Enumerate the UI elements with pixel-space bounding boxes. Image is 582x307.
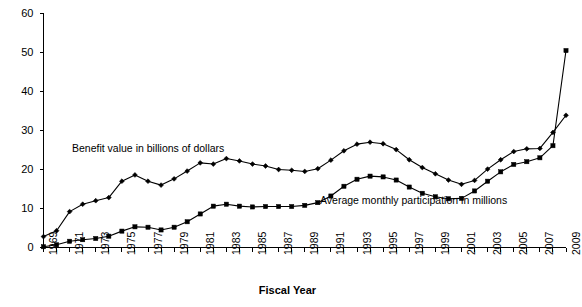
x-axis-title: Fiscal Year [0, 284, 575, 296]
y-tick-label: 30 [8, 125, 34, 136]
data-point-marker [211, 162, 216, 167]
data-point-marker [68, 239, 72, 243]
data-point-marker [524, 146, 529, 151]
data-point-marker [420, 165, 425, 170]
data-point-marker [289, 168, 294, 173]
data-point-marker [185, 220, 189, 224]
data-point-marker [80, 202, 85, 207]
data-point-marker [551, 144, 555, 148]
data-point-marker [290, 204, 294, 208]
x-axis-ticks [44, 248, 567, 252]
x-tick-label: 1983 [231, 231, 242, 254]
x-tick-label: 1995 [388, 231, 399, 254]
x-tick-label: 1997 [414, 231, 425, 254]
data-point-marker [512, 162, 516, 166]
axis-lines [44, 14, 567, 248]
y-tick-label: 60 [8, 8, 34, 19]
x-tick-label: 1991 [335, 231, 346, 254]
data-point-marker [538, 156, 542, 160]
data-point-marker [41, 234, 46, 239]
x-tick-label: 2003 [492, 231, 503, 254]
data-point-marker [472, 189, 476, 193]
data-point-marker [499, 170, 503, 174]
data-point-marker [133, 225, 137, 229]
y-tick-label: 40 [8, 86, 34, 97]
data-point-marker [237, 159, 242, 164]
x-tick-label: 1985 [257, 231, 268, 254]
x-tick-label: 2005 [518, 231, 529, 254]
data-point-marker [237, 204, 241, 208]
x-tick-label: 1989 [309, 231, 320, 254]
data-point-marker [224, 156, 229, 161]
data-point-marker [133, 173, 138, 178]
data-point-marker [407, 185, 411, 189]
data-point-marker [250, 162, 255, 167]
x-tick-label: 1987 [283, 231, 294, 254]
x-tick-label: 2007 [544, 231, 555, 254]
data-point-marker [94, 236, 98, 240]
series-1 [41, 113, 568, 239]
x-tick-label: 1977 [153, 231, 164, 254]
data-point-marker [394, 178, 398, 182]
data-point-marker [303, 203, 307, 207]
data-point-marker [263, 164, 268, 169]
data-point-marker [368, 140, 373, 145]
x-tick-label: 1979 [179, 231, 190, 254]
data-point-marker [224, 202, 228, 206]
data-point-marker [525, 160, 529, 164]
data-point-marker [172, 225, 176, 229]
data-point-marker [277, 204, 281, 208]
data-point-marker [172, 176, 177, 181]
x-tick-label: 1971 [74, 231, 85, 254]
data-point-marker [276, 167, 281, 172]
data-point-marker [486, 179, 490, 183]
data-point-marker [368, 174, 372, 178]
y-tick-label: 0 [8, 242, 34, 253]
x-tick-label: 1969 [48, 231, 59, 254]
data-point-marker [564, 48, 568, 52]
data-point-marker [263, 204, 267, 208]
series-label-2: Average monthly participation in million… [320, 194, 507, 206]
data-point-marker [381, 175, 385, 179]
data-point-marker [433, 171, 438, 176]
x-tick-label: 1975 [126, 231, 137, 254]
data-point-marker [41, 245, 45, 249]
data-point-marker [146, 179, 151, 184]
data-point-marker [355, 177, 359, 181]
y-tick-label: 10 [8, 203, 34, 214]
series-label-1: Benefit value in billions of dollars [72, 142, 224, 154]
data-point-marker [302, 169, 307, 174]
x-tick-label: 1993 [362, 231, 373, 254]
data-point-marker [198, 212, 202, 216]
y-axis-ticks [40, 14, 44, 248]
x-tick-label: 1973 [100, 231, 111, 254]
data-point-marker [459, 182, 464, 187]
y-tick-label: 50 [8, 47, 34, 58]
y-tick-label: 20 [8, 164, 34, 175]
data-point-marker [146, 225, 150, 229]
data-point-marker [446, 178, 451, 183]
data-point-marker [120, 229, 124, 233]
data-point-marker [381, 141, 386, 146]
data-point-marker [342, 184, 346, 188]
x-tick-label: 2001 [466, 231, 477, 254]
data-point-marker [355, 142, 360, 147]
x-tick-label: 2009 [571, 231, 582, 254]
data-point-marker [159, 183, 164, 188]
data-point-marker [211, 204, 215, 208]
data-point-marker [250, 205, 254, 209]
x-tick-label: 1981 [205, 231, 216, 254]
x-tick-label: 1999 [440, 231, 451, 254]
data-point-marker [93, 198, 98, 203]
